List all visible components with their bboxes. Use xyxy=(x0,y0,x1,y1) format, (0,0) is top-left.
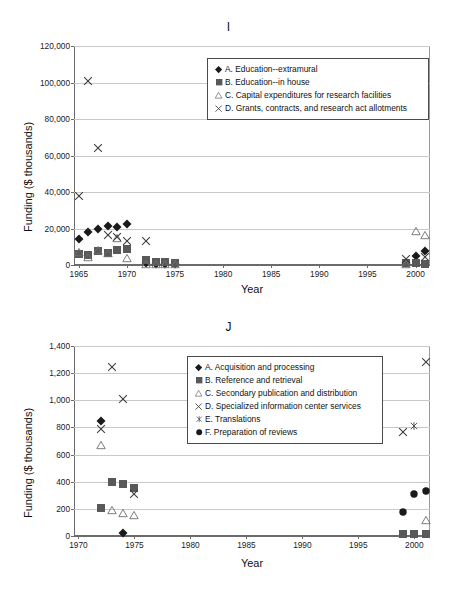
y-tick-label: 60,000 xyxy=(45,151,70,161)
x-tick-label: 1985 xyxy=(262,269,280,279)
legend-label: F. Preparation of reviews xyxy=(205,428,297,436)
legend-marker-icon xyxy=(213,92,225,98)
chart-i-title: I xyxy=(0,20,457,34)
y-tick-mark xyxy=(71,265,74,266)
chart-gridline xyxy=(74,509,430,510)
x-tick-mark xyxy=(175,265,176,268)
x-tick-mark xyxy=(367,265,368,268)
legend-marker-icon xyxy=(213,105,225,112)
x-tick-label: 1990 xyxy=(293,540,311,550)
legend-row[interactable]: B. Education--in house xyxy=(213,76,422,89)
y-tick-mark xyxy=(71,373,74,374)
x-tick-label: 1985 xyxy=(237,540,255,550)
x-tick-label: 1965 xyxy=(70,269,88,279)
legend-label: E. Translations xyxy=(205,415,260,423)
chart-gridline xyxy=(74,229,430,230)
x-tick-label: 1980 xyxy=(214,269,232,279)
chart-i-x-axis-label: Year xyxy=(74,283,430,295)
y-tick-label: 20,000 xyxy=(45,224,70,234)
y-tick-label: 120,000 xyxy=(40,41,70,51)
x-tick-mark xyxy=(319,265,320,268)
legend-marker-icon xyxy=(193,390,205,396)
y-tick-mark xyxy=(71,346,74,347)
x-tick-mark xyxy=(302,536,303,539)
chart-panel-i: I 020,00040,00060,00080,000100,000120,00… xyxy=(0,0,457,300)
y-tick-mark xyxy=(71,119,74,120)
y-tick-label: 600 xyxy=(56,450,70,460)
chart-gridline xyxy=(74,455,430,456)
x-tick-mark xyxy=(271,265,272,268)
y-tick-label: 800 xyxy=(56,422,70,432)
x-tick-label: 2000 xyxy=(405,540,423,550)
chart-panel-j: J 02004006008001,0001,2001,4001970197519… xyxy=(0,300,457,593)
x-tick-mark xyxy=(127,265,128,268)
legend-row[interactable]: E. Translations xyxy=(193,413,376,426)
y-tick-label: 80,000 xyxy=(45,114,70,124)
y-tick-mark xyxy=(71,400,74,401)
legend-row[interactable]: F. Preparation of reviews xyxy=(193,426,376,439)
y-tick-mark xyxy=(71,536,74,537)
x-tick-mark xyxy=(416,265,417,268)
chart-j-y-axis-label: Funding ($ thousands) xyxy=(22,408,34,518)
y-tick-mark xyxy=(71,46,74,47)
legend-label: D. Specialized information center servic… xyxy=(205,402,361,410)
y-tick-mark xyxy=(71,482,74,483)
legend-row[interactable]: C. Capital expenditures for research fac… xyxy=(213,89,422,102)
x-tick-label: 1995 xyxy=(349,540,367,550)
x-tick-mark xyxy=(134,536,135,539)
y-tick-mark xyxy=(71,455,74,456)
y-tick-label: 400 xyxy=(56,477,70,487)
chart-gridline xyxy=(74,192,430,193)
legend-row[interactable]: A. Acquisition and processing xyxy=(193,361,376,374)
legend-marker-icon xyxy=(193,364,205,371)
legend-row[interactable]: B. Reference and retrieval xyxy=(193,374,376,387)
x-tick-mark xyxy=(79,265,80,268)
legend-marker-icon xyxy=(213,79,225,85)
x-tick-label: 1975 xyxy=(166,269,184,279)
figure-page: I 020,00040,00060,00080,000100,000120,00… xyxy=(0,0,457,593)
legend-label: B. Reference and retrieval xyxy=(205,376,302,384)
legend-label: A. Education--extramural xyxy=(225,65,318,73)
legend-marker-icon xyxy=(193,416,205,422)
legend-row[interactable]: D. Grants, contracts, and research act a… xyxy=(213,102,422,115)
y-tick-mark xyxy=(71,192,74,193)
legend-marker-icon xyxy=(193,403,205,410)
x-tick-label: 1995 xyxy=(358,269,376,279)
legend-label: C. Capital expenditures for research fac… xyxy=(225,91,391,99)
x-tick-label: 2000 xyxy=(406,269,424,279)
legend-row[interactable]: A. Education--extramural xyxy=(213,63,422,76)
chart-j-legend: A. Acquisition and processing B. Referen… xyxy=(187,356,383,444)
chart-j-x-axis-label: Year xyxy=(74,557,430,569)
x-tick-mark xyxy=(223,265,224,268)
legend-marker-icon xyxy=(193,377,205,383)
x-tick-label: 1990 xyxy=(310,269,328,279)
y-tick-label: 1,400 xyxy=(49,341,70,351)
legend-label: D. Grants, contracts, and research act a… xyxy=(225,104,407,112)
chart-gridline xyxy=(74,46,430,47)
legend-marker-icon xyxy=(193,429,205,435)
x-tick-label: 1980 xyxy=(181,540,199,550)
y-tick-label: 100,000 xyxy=(40,78,70,88)
x-tick-mark xyxy=(78,536,79,539)
chart-i-legend: A. Education--extramural B. Education--i… xyxy=(207,58,429,120)
x-tick-mark xyxy=(246,536,247,539)
chart-gridline xyxy=(74,346,430,347)
legend-row[interactable]: D. Specialized information center servic… xyxy=(193,400,376,413)
y-tick-label: 1,000 xyxy=(49,395,70,405)
y-tick-mark xyxy=(71,156,74,157)
x-tick-label: 1975 xyxy=(125,540,143,550)
x-tick-mark xyxy=(190,536,191,539)
chart-gridline xyxy=(74,482,430,483)
legend-marker-icon xyxy=(213,66,225,73)
legend-row[interactable]: C. Secondary publication and distributio… xyxy=(193,387,376,400)
legend-label: C. Secondary publication and distributio… xyxy=(205,389,357,397)
chart-gridline xyxy=(74,536,430,537)
y-tick-mark xyxy=(71,427,74,428)
chart-i-y-axis-label: Funding ($ thousands) xyxy=(22,122,34,232)
x-tick-label: 1970 xyxy=(118,269,136,279)
y-tick-label: 1,200 xyxy=(49,368,70,378)
legend-label: B. Education--in house xyxy=(225,78,310,86)
y-tick-mark xyxy=(71,229,74,230)
chart-j-title: J xyxy=(0,320,457,334)
x-tick-mark xyxy=(358,536,359,539)
